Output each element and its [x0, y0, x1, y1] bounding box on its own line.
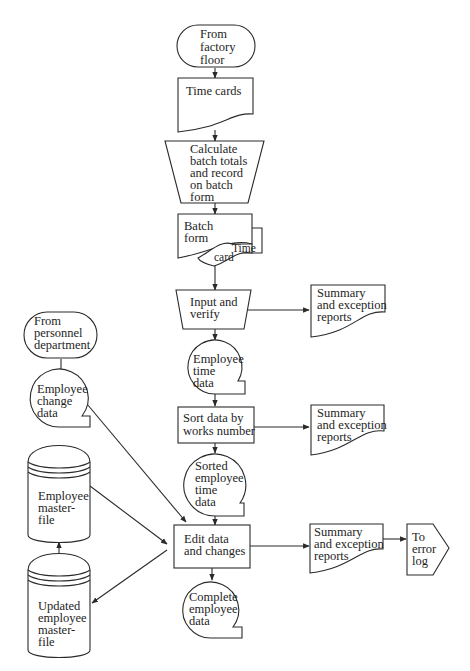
tape-employee-change-data: Employee change data	[30, 369, 90, 427]
report1-line-3: reports	[317, 310, 352, 324]
terminator-factory-floor: From factory floor	[177, 25, 255, 67]
sort-line-1: Sort data by	[183, 411, 244, 425]
multidocument-batch-form: Batch form Time card	[178, 214, 262, 266]
change-line-3: data	[37, 406, 58, 420]
time-card-line-1: Time	[232, 242, 256, 254]
sorted-line-4: data	[195, 495, 216, 509]
flowchart-canvas: From factory floor Time cards Calculate …	[0, 0, 470, 671]
tape-sorted-employee-time-data: Sorted employee time data	[184, 454, 246, 516]
document-report-3: Summary and exception reports	[310, 524, 385, 573]
process-edit-data: Edit data and changes	[174, 525, 250, 568]
master-line-3: file	[38, 513, 55, 527]
tape-employee-time-data: Employee time data	[188, 340, 245, 394]
edit-line-2: and changes	[184, 544, 246, 558]
offpage-error-log: To error log	[407, 524, 449, 575]
document-report-2: Summary and exception reports	[311, 405, 388, 455]
complete-line-3: data	[189, 614, 210, 628]
factory-floor-line-1: From	[200, 27, 227, 41]
disk-employee-master-file: Employee master- file	[28, 446, 90, 543]
manual-op-calculate-batch: Calculate batch totals and record on bat…	[165, 141, 264, 204]
document-time-cards: Time cards	[178, 78, 253, 132]
factory-floor-line-3: floor	[200, 53, 225, 67]
time-card-line-2: card	[214, 251, 234, 263]
report3-line-3: reports	[314, 549, 349, 563]
manual-op-input-verify: Input and verify	[176, 290, 251, 329]
sort-line-2: works number	[183, 424, 256, 438]
process-sort-data: Sort data by works number	[178, 407, 256, 443]
tape-complete-employee-data: Complete employee data	[183, 582, 242, 638]
report2-line-3: reports	[317, 430, 352, 444]
edge-edit-to-updated	[92, 550, 167, 603]
personnel-line-3: department	[34, 338, 91, 352]
edge-change-to-edit	[87, 404, 186, 522]
batch-form-line-2: form	[184, 231, 209, 245]
error-log-line-3: log	[412, 554, 429, 568]
updated-line-4: file	[38, 635, 55, 649]
input-verify-line-2: verify	[190, 307, 221, 321]
emp-time-line-3: data	[193, 376, 214, 390]
edge-master-to-edit	[90, 486, 167, 544]
factory-floor-line-2: factory	[200, 40, 236, 54]
terminator-personnel: From personnel department	[24, 312, 97, 358]
calc-line-5: form	[190, 190, 215, 204]
disk-updated-master-file: Updated employee master- file	[28, 554, 90, 658]
document-report-1: Summary and exception reports	[311, 285, 388, 337]
time-cards-label: Time cards	[186, 84, 242, 98]
